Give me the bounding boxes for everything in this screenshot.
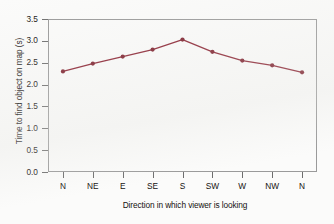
- y-tick-label: 1.0: [14, 123, 38, 133]
- x-tick-label: W: [227, 181, 257, 191]
- x-tick-mark: [63, 172, 64, 178]
- x-tick-label: S: [168, 181, 198, 191]
- y-tick-mark: [42, 128, 48, 129]
- y-tick-mark: [42, 85, 48, 86]
- x-tick-label: N: [48, 181, 78, 191]
- x-tick-label: NE: [78, 181, 108, 191]
- y-tick-label: 1.5: [14, 101, 38, 111]
- y-tick-label: 0.0: [14, 167, 38, 177]
- x-tick-mark: [123, 172, 124, 178]
- y-tick-mark: [42, 41, 48, 42]
- x-tick-mark: [242, 172, 243, 178]
- y-tick-label: 3.0: [14, 35, 38, 45]
- y-tick-label: 3.5: [14, 14, 38, 24]
- chart-figure: Time to find object on map (s) Direction…: [0, 0, 334, 224]
- y-tick-mark: [42, 172, 48, 173]
- x-tick-mark: [93, 172, 94, 178]
- y-tick-mark: [42, 106, 48, 107]
- y-tick-label: 2.5: [14, 57, 38, 67]
- y-tick-label: 2.0: [14, 79, 38, 89]
- x-tick-mark: [183, 172, 184, 178]
- x-tick-label: SW: [197, 181, 227, 191]
- plot-area: [48, 19, 317, 172]
- x-axis-title: Direction in which viewer is looking: [44, 200, 326, 210]
- x-tick-label: E: [108, 181, 138, 191]
- x-tick-mark: [153, 172, 154, 178]
- y-tick-mark: [42, 19, 48, 20]
- x-tick-label: NW: [257, 181, 287, 191]
- y-tick-label: 0.5: [14, 145, 38, 155]
- x-tick-mark: [212, 172, 213, 178]
- x-tick-label: SE: [138, 181, 168, 191]
- y-tick-mark: [42, 150, 48, 151]
- x-tick-mark: [302, 172, 303, 178]
- x-tick-mark: [272, 172, 273, 178]
- y-tick-mark: [42, 63, 48, 64]
- x-tick-label: N: [287, 181, 317, 191]
